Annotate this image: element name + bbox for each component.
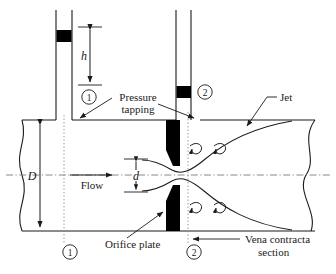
D-dimension: D — [27, 125, 40, 227]
pipe-left-break-line — [19, 120, 24, 231]
section-1-bottom-label: 1 — [68, 248, 73, 258]
d-label: d — [133, 169, 140, 183]
manometer-tube-left — [56, 10, 72, 120]
eddy-arrow-lower-right — [214, 203, 226, 213]
D-label: D — [27, 169, 37, 183]
section-1-top-marker: 1 — [82, 90, 96, 104]
h-label: h — [81, 49, 87, 63]
jet-streamline-upper — [142, 121, 292, 172]
pressure-tapping-leader-left — [80, 98, 112, 118]
diagram-canvas: h 1 2 1 2 D Flow d — [0, 0, 336, 274]
pressure-tapping-label-line1: Pressure — [119, 91, 156, 103]
eddy-group-upper — [190, 144, 226, 154]
section-1-top-label: 1 — [87, 93, 92, 103]
vena-contracta-label-line2: section — [258, 246, 290, 258]
orifice-plate-leader — [127, 212, 163, 238]
section-2-bottom-label: 2 — [192, 248, 197, 258]
section-1-bottom-marker: 1 — [63, 245, 77, 259]
vena-contracta-label-line1: Vena contracta — [245, 233, 310, 245]
mercury-column-right — [177, 86, 192, 98]
manometer-tube-right — [176, 10, 191, 120]
orifice-meter-diagram: h 1 2 1 2 D Flow d — [0, 0, 336, 274]
eddy-group-lower — [190, 203, 226, 213]
d-dimension: d — [124, 159, 148, 192]
flow-label: Flow — [81, 179, 104, 191]
vena-contracta-annotation: Vena contracta section — [193, 233, 310, 258]
jet-annotation: Jet — [247, 91, 292, 126]
section-2-top-marker: 2 — [198, 85, 212, 99]
jet-label: Jet — [280, 91, 292, 103]
orifice-plate-upper — [166, 120, 180, 166]
orifice-plate-label: Orifice plate — [105, 238, 160, 250]
pressure-tapping-label-line2: tapping — [122, 103, 155, 115]
eddy-arrow-lower-left — [190, 203, 202, 213]
pipe-right-break-line — [303, 120, 315, 231]
section-2-top-label: 2 — [203, 88, 208, 98]
jet-streamline-lower — [142, 179, 292, 230]
section-2-bottom-marker: 2 — [187, 245, 201, 259]
mercury-column-left — [57, 30, 72, 42]
flow-indicator: Flow — [70, 175, 112, 191]
orifice-plate-lower — [166, 185, 180, 231]
h-dimension: h — [78, 27, 102, 85]
jet-leader — [247, 97, 277, 126]
eddy-arrow-upper-left — [190, 144, 202, 154]
